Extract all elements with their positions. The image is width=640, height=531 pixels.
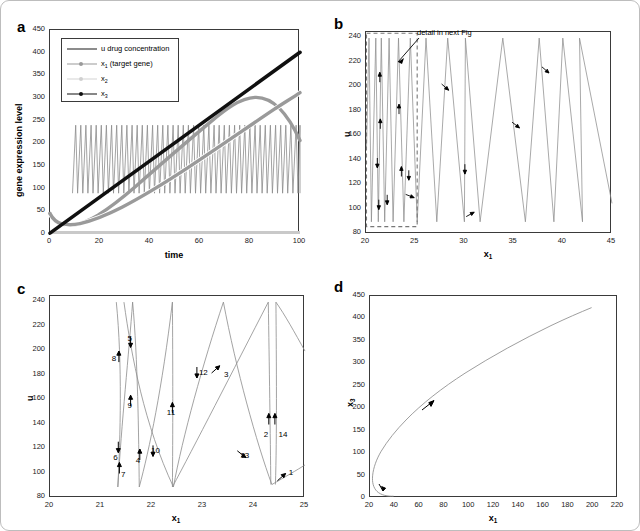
panel-b-letter: b <box>334 16 343 31</box>
tick: 300 <box>32 93 45 101</box>
tick: 220 <box>32 321 45 329</box>
tick: 45 <box>607 237 615 245</box>
panel-b-annotation-text: detail in next Fig <box>417 29 472 37</box>
panel-c: c 1234567891011121314 240 220 200 180 16… <box>1 267 321 531</box>
tick: 20 <box>95 237 103 245</box>
tick: 23 <box>198 501 206 509</box>
panel-a-legend: u drug concentration x1 (target gene) x2 <box>61 38 179 102</box>
arrow-label-14: 14 <box>279 431 288 439</box>
panel-d-yaxis-title: x3 <box>346 398 355 407</box>
tick: 200 <box>586 501 599 509</box>
legend-key-x3-line <box>67 89 97 99</box>
tick: 40 <box>390 501 398 509</box>
panel-b-xaxis-title: x1 <box>484 250 493 259</box>
panel-d-arrow-2 <box>422 401 434 410</box>
panel-d-xaxis-title: x1 <box>489 514 498 523</box>
panel-c-yaxis-title: u <box>26 396 35 402</box>
panel-d-plot-area <box>369 295 617 497</box>
tick: 150 <box>32 161 45 169</box>
figure-container: a 450 400 350 300 250 200 15 <box>0 0 640 531</box>
tick: 450 <box>32 25 45 33</box>
tick: 400 <box>352 314 365 322</box>
tick: 80 <box>245 237 253 245</box>
tick: 22 <box>147 501 155 509</box>
arrow-label-3: 3 <box>224 371 228 379</box>
tick: 25 <box>410 237 418 245</box>
legend-item-x3: x3 <box>67 89 108 99</box>
legend-key-x2-line <box>67 74 97 84</box>
tick: 100 <box>32 468 45 476</box>
tick: 160 <box>536 501 549 509</box>
tick: 40 <box>145 237 153 245</box>
tick: 250 <box>352 381 365 389</box>
arrow-label-13: 13 <box>240 452 249 460</box>
tick: 140 <box>512 501 525 509</box>
tick: 180 <box>32 370 45 378</box>
legend-item-u: u drug concentration <box>67 44 169 54</box>
tick: 180 <box>348 106 361 114</box>
tick: 120 <box>32 443 45 451</box>
tick: 200 <box>348 81 361 89</box>
legend-item-x2: x2 <box>67 74 108 84</box>
tick: 400 <box>32 48 45 56</box>
tick: 20 <box>45 501 53 509</box>
legend-label: x2 <box>101 75 108 83</box>
tick: 60 <box>414 501 422 509</box>
tick: 80 <box>37 492 45 500</box>
panel-b-annotation-arrow <box>395 37 455 71</box>
tick: 24 <box>249 501 257 509</box>
tick: 25 <box>300 501 308 509</box>
tick: 240 <box>348 32 361 40</box>
tick: 0 <box>41 229 45 237</box>
panel-d-curves <box>370 296 618 498</box>
tick: 120 <box>348 179 361 187</box>
tick: 80 <box>353 228 361 236</box>
panel-a-letter: a <box>17 19 25 34</box>
tick: 100 <box>462 501 475 509</box>
arrow-label-12: 12 <box>199 369 208 377</box>
arrow-label-7: 7 <box>121 471 125 479</box>
tick: 100 <box>32 184 45 192</box>
tick: 20 <box>361 237 369 245</box>
tick: 220 <box>611 501 624 509</box>
arrow-label-4: 4 <box>136 457 140 465</box>
panel-d: d 450 400 350 300 250 200 150 10 <box>321 267 640 531</box>
panel-c-letter: c <box>17 281 25 296</box>
tick: 240 <box>32 296 45 304</box>
tick: 50 <box>37 207 45 215</box>
arrow-label-6: 6 <box>113 454 117 462</box>
tick: 350 <box>32 71 45 79</box>
legend-item-x1: x1 (target gene) <box>67 59 153 69</box>
arrow-label-2: 2 <box>264 431 268 439</box>
tick: 180 <box>561 501 574 509</box>
arrow-label-9: 9 <box>128 402 132 410</box>
panel-b-yaxis-title: u <box>343 132 352 138</box>
panel-c-plot-area <box>49 295 304 497</box>
tick: 350 <box>352 336 365 344</box>
legend-label: u drug concentration <box>101 45 169 53</box>
tick: 300 <box>352 359 365 367</box>
tick: 100 <box>348 204 361 212</box>
legend-key-x1-line <box>67 59 97 69</box>
tick: 21 <box>96 501 104 509</box>
tick: 35 <box>508 237 516 245</box>
tick: 40 <box>558 237 566 245</box>
panel-c-xaxis-title: x1 <box>172 514 181 523</box>
tick: 200 <box>32 139 45 147</box>
tick: 200 <box>32 345 45 353</box>
legend-key-u-line <box>67 44 97 54</box>
arrow-label-8: 8 <box>112 355 116 363</box>
tick: 20 <box>365 501 373 509</box>
tick: 120 <box>487 501 500 509</box>
panel-a: a 450 400 350 300 250 200 15 <box>1 1 321 267</box>
tick: 80 <box>439 501 447 509</box>
panel-a-yaxis-title: gene expression level <box>15 103 24 197</box>
tick: 140 <box>32 419 45 427</box>
tick: 100 <box>293 237 306 245</box>
panel-b: b detail in next Fig 240 220 200 180 160… <box>321 1 640 267</box>
panel-d-arrow-1 <box>379 484 386 491</box>
arrow-label-1: 1 <box>289 469 293 477</box>
legend-label: x1 (target gene) <box>101 60 153 68</box>
tick: 450 <box>352 291 365 299</box>
tick: 150 <box>352 426 365 434</box>
